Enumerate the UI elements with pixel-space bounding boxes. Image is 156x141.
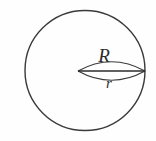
label-minor-radius: r bbox=[106, 75, 112, 91]
figure-container: R r bbox=[0, 0, 156, 141]
lens-upper-arc bbox=[78, 62, 145, 71]
label-major-radius: R bbox=[97, 45, 110, 66]
geometry-diagram: R r bbox=[0, 0, 156, 141]
